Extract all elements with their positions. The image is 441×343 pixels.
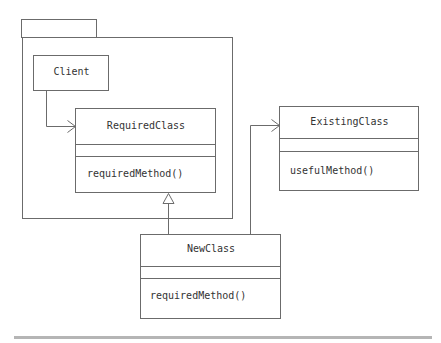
- existing-class-name: ExistingClass: [280, 116, 419, 127]
- generalization-arrow: [163, 194, 174, 235]
- new-class-name: NewClass: [141, 243, 281, 254]
- required-class-method: requiredMethod(): [87, 168, 183, 179]
- hollow-triangle-icon: [163, 194, 174, 204]
- adapter-association-arrow: [251, 120, 280, 235]
- client-class-name: Client: [34, 66, 109, 77]
- required-class-name: RequiredClass: [76, 120, 216, 131]
- bottom-rule: [14, 336, 432, 339]
- package-tab: [22, 20, 97, 38]
- new-class-method: requiredMethod(): [150, 290, 246, 301]
- client-association-arrow: [47, 91, 76, 133]
- existing-class-method: usefulMethod(): [290, 165, 374, 176]
